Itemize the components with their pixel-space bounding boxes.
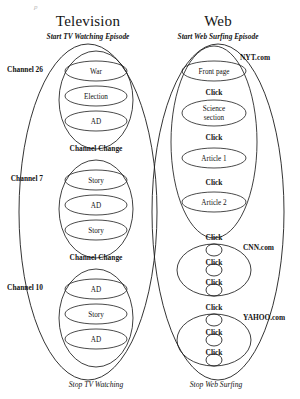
channel-26-item-label-2: Election: [84, 93, 108, 101]
channel-7-item-label-2: AD: [91, 202, 101, 210]
channel-10-item-label-1: AD: [91, 286, 101, 294]
cnn-group-ellipse: [177, 244, 251, 296]
channel-10-item-label-2: Story: [88, 311, 104, 319]
television-group-channel-10: Channel 10 AD Story AD: [7, 269, 133, 367]
yahoo-item-ellipse-1: [206, 314, 222, 326]
television-column-title: Television: [56, 13, 121, 29]
web-group-cnn: CNN.com Click Click: [177, 243, 275, 296]
top-text-fragment: p: [33, 3, 38, 11]
channel-10-item-label-3: AD: [91, 336, 101, 344]
television-column: Television Start TV Watching Episode Cha…: [7, 13, 157, 389]
yahoo-label: YAHOO.com: [243, 313, 286, 322]
television-stop-label: Stop TV Watching: [69, 380, 124, 389]
nyt-item-ellipse-2: [182, 100, 246, 126]
web-transition-2: Click: [206, 303, 224, 312]
television-transition-2: Channel Change: [70, 253, 123, 262]
nyt-item-label-1: Front page: [199, 68, 230, 76]
television-group-channel-7: Channel 7 Story AD Story: [11, 160, 133, 258]
channel-26-item-label-1: War: [90, 68, 102, 76]
channel-26-item-label-3: AD: [91, 118, 101, 126]
web-stop-label: Stop Web Surfing: [190, 380, 243, 389]
nyt-inner-transition-3: Click: [206, 178, 224, 187]
web-column-title: Web: [204, 13, 232, 29]
yahoo-group-ellipse: [177, 314, 251, 366]
web-start-label: Start Web Surfing Episode: [178, 32, 260, 41]
nyt-label: NYT.com: [240, 53, 271, 62]
nyt-inner-transition-1: Click: [206, 88, 224, 97]
cnn-item-ellipse-1: [206, 244, 222, 256]
nyt-item-label-2a: Science: [203, 105, 225, 113]
television-group-channel-26: Channel 26 War Election AD: [7, 51, 133, 149]
web-transition-1: Click: [206, 233, 224, 242]
channel-7-label: Channel 7: [11, 174, 44, 183]
web-column: Web Start Web Surfing Episode NYT.com Fr…: [152, 13, 286, 389]
nyt-inner-transition-2: Click: [206, 133, 224, 142]
nyt-item-label-3: Article 1: [201, 155, 227, 163]
channel-7-item-label-3: Story: [88, 227, 104, 235]
web-group-yahoo: YAHOO.com Click Click: [177, 313, 286, 366]
channel-7-item-label-1: Story: [88, 177, 104, 185]
television-start-label: Start TV Watching Episode: [47, 32, 130, 41]
television-transition-1: Channel Change: [70, 144, 123, 153]
nyt-item-label-2b: section: [204, 114, 225, 122]
cnn-label: CNN.com: [243, 243, 275, 252]
nyt-item-label-4: Article 2: [201, 199, 227, 207]
channel-26-label: Channel 26: [7, 65, 43, 74]
episode-structure-diagram: p Television Start TV Watching Episode C…: [0, 0, 300, 399]
channel-10-label: Channel 10: [7, 283, 43, 292]
